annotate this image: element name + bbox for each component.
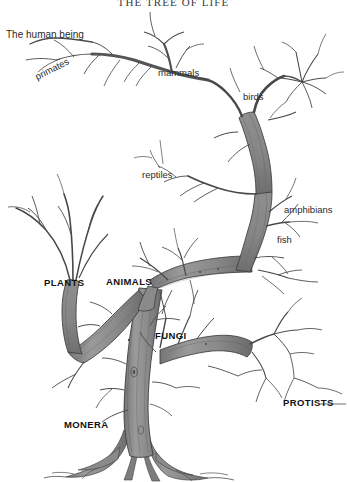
label-animals: ANIMALS [106, 277, 152, 287]
label-fungi: FUNGI [155, 331, 187, 341]
label-plants: PLANTS [44, 278, 84, 288]
branch-birds [230, 34, 344, 118]
branch-protists [160, 298, 346, 404]
twigs-fish [254, 257, 318, 295]
label-the-human-being: The human being [6, 30, 84, 40]
label-reptiles: reptiles [142, 170, 173, 180]
label-monera: MONERA [64, 420, 109, 430]
plants-branches [8, 174, 108, 280]
label-birds: birds [243, 92, 264, 102]
label-amphibians: amphibians [284, 205, 333, 215]
label-mammals: mammals [158, 68, 199, 78]
label-protists: PROTISTS [283, 398, 334, 408]
tree-of-life-diagram: THE TREE OF LIFE [0, 0, 347, 482]
label-fish: fish [277, 235, 292, 245]
